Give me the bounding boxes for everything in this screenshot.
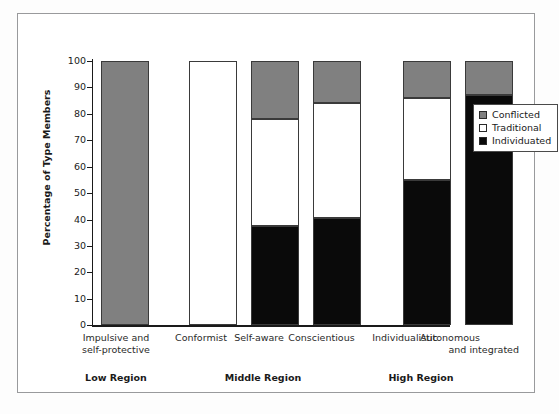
bar-self-aware[interactable] bbox=[251, 61, 299, 325]
y-tick-label-100: 100 bbox=[44, 56, 86, 66]
y-tick-80 bbox=[87, 114, 92, 115]
legend-label-conflicted: Conflicted bbox=[492, 110, 540, 120]
y-tick-0 bbox=[87, 325, 92, 326]
chart-figure: 100 90 80 70 60 50 40 30 20 10 0 Percent… bbox=[0, 0, 559, 414]
y-tick-40 bbox=[87, 220, 92, 221]
y-tick-10 bbox=[87, 299, 92, 300]
segment-conflicted bbox=[313, 61, 361, 103]
segment-traditional bbox=[189, 61, 237, 325]
legend-label-individuated: Individuated bbox=[492, 136, 551, 146]
y-tick-50 bbox=[87, 193, 92, 194]
region-label-high: High Region bbox=[351, 372, 491, 383]
chart-frame: 100 90 80 70 60 50 40 30 20 10 0 Percent… bbox=[17, 13, 535, 393]
region-label-low: Low Region bbox=[58, 372, 174, 383]
y-tick-100 bbox=[87, 61, 92, 62]
region-label-middle: Middle Region bbox=[183, 372, 343, 383]
segment-conflicted bbox=[465, 61, 513, 95]
bar-conformist[interactable] bbox=[189, 61, 237, 325]
segment-conflicted bbox=[101, 61, 149, 325]
segment-traditional bbox=[403, 98, 451, 180]
y-tick-label-10: 10 bbox=[44, 294, 86, 304]
legend-item-individuated[interactable]: Individuated bbox=[479, 135, 551, 147]
segment-traditional bbox=[251, 119, 299, 226]
y-tick-30 bbox=[87, 246, 92, 247]
y-tick-label-20: 20 bbox=[44, 267, 86, 277]
legend-item-traditional[interactable]: Traditional bbox=[479, 122, 551, 134]
legend-label-traditional: Traditional bbox=[492, 123, 541, 133]
x-label-line-1: Autonomous bbox=[414, 332, 519, 344]
segment-individuated bbox=[403, 180, 451, 325]
legend-item-conflicted[interactable]: Conflicted bbox=[479, 109, 551, 121]
segment-conflicted bbox=[403, 61, 451, 98]
y-tick-90 bbox=[87, 87, 92, 88]
segment-traditional bbox=[313, 103, 361, 218]
x-axis-line bbox=[92, 325, 450, 327]
legend-swatch-traditional-icon bbox=[479, 124, 487, 132]
segment-conflicted bbox=[251, 61, 299, 119]
bar-autonomous-and-integrated[interactable] bbox=[465, 61, 513, 325]
bar-conscientious[interactable] bbox=[313, 61, 361, 325]
segment-individuated bbox=[251, 226, 299, 325]
plot-area bbox=[93, 61, 448, 325]
segment-individuated bbox=[313, 218, 361, 325]
y-tick-20 bbox=[87, 272, 92, 273]
x-label-autonomous-and-integrated: Autonomous and integrated bbox=[414, 332, 519, 356]
bar-impulsive-and-self-protective[interactable] bbox=[101, 61, 149, 325]
bar-individualistic[interactable] bbox=[403, 61, 451, 325]
legend-swatch-conflicted-icon bbox=[479, 111, 487, 119]
y-tick-60 bbox=[87, 167, 92, 168]
y-tick-70 bbox=[87, 140, 92, 141]
y-axis-title: Percentage of Type Members bbox=[41, 68, 52, 268]
y-tick-label-0: 0 bbox=[44, 320, 86, 330]
legend-swatch-individuated-icon bbox=[479, 137, 487, 145]
chart-legend: Conflicted Traditional Individuated bbox=[473, 104, 558, 152]
x-label-line-2: self-protective bbox=[56, 344, 176, 356]
x-label-line-2: and integrated bbox=[414, 344, 519, 356]
